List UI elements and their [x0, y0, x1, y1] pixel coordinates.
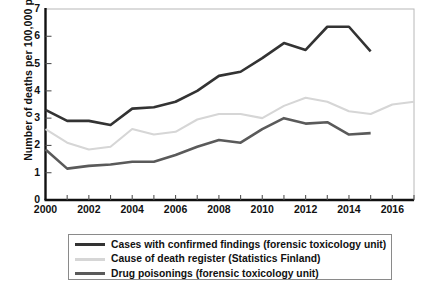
y-tick-label: 1 — [26, 166, 40, 178]
legend-item: Drug poisonings (forensic toxicology uni… — [75, 267, 391, 282]
x-tick-label: 2008 — [199, 203, 239, 215]
y-tick-label: 5 — [26, 57, 40, 69]
legend-line-swatch — [75, 272, 105, 275]
y-tick-label: 2 — [26, 138, 40, 150]
x-tick-label: 2010 — [242, 203, 282, 215]
legend-line-swatch — [75, 243, 105, 246]
x-tick-label: 2012 — [286, 203, 326, 215]
x-tick-label: 2004 — [112, 203, 152, 215]
x-tick-label: 2002 — [69, 203, 109, 215]
x-tick-label: 2000 — [26, 203, 66, 215]
legend-label: Cause of death register (Statistics Finl… — [111, 254, 320, 264]
chart-figure: Number of deaths per 100,000 people 0123… — [0, 0, 426, 288]
legend-label: Drug poisonings (forensic toxicology uni… — [111, 269, 319, 279]
y-tick-label: 4 — [26, 84, 40, 96]
x-tick-label: 2014 — [329, 203, 369, 215]
chart-legend: Cases with confirmed findings (forensic … — [68, 234, 392, 280]
y-tick-label: 6 — [26, 29, 40, 41]
x-tick-label: 2006 — [156, 203, 196, 215]
x-tick-label: 2016 — [372, 203, 412, 215]
series-line-0 — [46, 27, 371, 125]
legend-item: Cause of death register (Statistics Finl… — [75, 252, 391, 267]
y-tick-label: 3 — [26, 111, 40, 123]
legend-item: Cases with confirmed findings (forensic … — [75, 238, 391, 253]
legend-label: Cases with confirmed findings (forensic … — [111, 240, 386, 250]
series-line-2 — [46, 118, 371, 168]
y-tick-label: 7 — [26, 2, 40, 14]
legend-line-swatch — [75, 258, 105, 261]
